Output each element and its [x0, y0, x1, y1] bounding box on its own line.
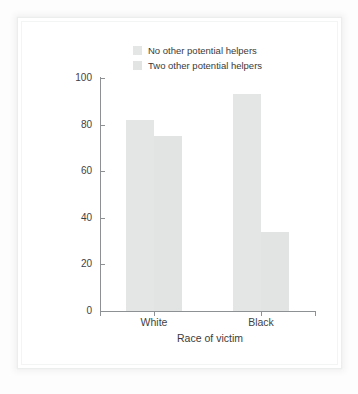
legend-label-0: No other potential helpers — [148, 44, 257, 57]
y-tick-100 — [101, 78, 105, 79]
bar-black-series-1 — [261, 232, 289, 311]
legend-swatch-two-other-potential-helpers — [133, 61, 142, 70]
legend-swatch-no-other-potential-helpers — [133, 46, 142, 55]
y-tick-label-40: 40 — [62, 212, 92, 223]
y-tick-60 — [101, 171, 105, 172]
y-tick-label-20: 20 — [62, 258, 92, 269]
chart-legend: No other potential helpers Two other pot… — [133, 44, 323, 74]
figure-root: No other potential helpers Two other pot… — [0, 0, 358, 394]
bar-black-series-0 — [233, 94, 261, 311]
y-tick-label-0: 0 — [62, 305, 92, 316]
legend-label-1: Two other potential helpers — [148, 59, 262, 72]
bar-white-series-0 — [126, 120, 154, 311]
y-tick-label-60: 60 — [62, 165, 92, 176]
x-axis-end-tick-0 — [100, 312, 101, 316]
plot-area — [100, 78, 315, 311]
x-axis-end-tick-1 — [315, 312, 316, 316]
x-tick-label-black: Black — [226, 316, 296, 328]
x-tick-label-white: White — [119, 316, 189, 328]
y-tick-label-80: 80 — [62, 119, 92, 130]
y-tick-40 — [101, 218, 105, 219]
y-tick-80 — [101, 125, 105, 126]
y-tick-20 — [101, 264, 105, 265]
y-tick-label-100: 100 — [62, 72, 92, 83]
legend-item-0: No other potential helpers — [133, 44, 323, 57]
x-axis-line — [100, 311, 316, 312]
y-tick-0 — [101, 311, 105, 312]
x-axis-title: Race of victim — [120, 332, 300, 344]
bar-white-series-1 — [154, 136, 182, 311]
legend-item-1: Two other potential helpers — [133, 59, 323, 72]
